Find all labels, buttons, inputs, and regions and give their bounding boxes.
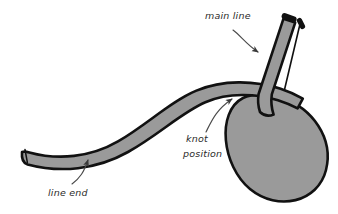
label-main-line: main line bbox=[205, 10, 251, 21]
label-knot-position-line2: position bbox=[182, 148, 222, 159]
label-knot-position-line1: knot bbox=[186, 133, 209, 144]
rope-loop bbox=[226, 95, 328, 202]
labels-group: main line knot position line end bbox=[48, 10, 251, 198]
rope-main-line-tip-icon bbox=[285, 16, 294, 19]
knot-diagram-svg: main line knot position line end bbox=[0, 0, 338, 214]
rope-group bbox=[22, 16, 328, 201]
label-line-end: line end bbox=[48, 187, 88, 198]
rope-thin-strand-tip-icon bbox=[300, 21, 303, 27]
main-line-leader-arrow-icon bbox=[233, 30, 258, 52]
knot-diagram-figure: main line knot position line end bbox=[0, 0, 338, 214]
